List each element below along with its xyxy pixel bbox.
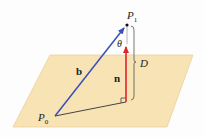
label-p1: P1 <box>126 9 138 24</box>
diagram: P1 P0 b n θ D <box>0 0 204 137</box>
label-n: n <box>114 72 120 84</box>
diagram-canvas: P1 P0 b n θ D <box>0 0 204 137</box>
label-theta: θ <box>117 38 122 49</box>
label-b: b <box>76 65 82 77</box>
label-d: D <box>139 57 148 69</box>
point-p1 <box>125 23 128 26</box>
